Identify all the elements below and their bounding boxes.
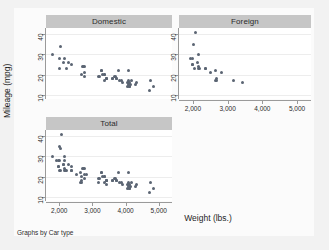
x-tick	[59, 203, 60, 206]
graph-note: Graphs by Car type	[17, 229, 73, 236]
data-point	[58, 57, 61, 60]
data-point	[70, 165, 73, 168]
data-point	[59, 169, 62, 172]
data-point	[134, 83, 137, 86]
y-tick-label: 30	[37, 54, 44, 74]
data-point	[121, 81, 124, 84]
plot-area-foreign	[179, 28, 311, 99]
data-point	[148, 191, 151, 194]
data-point	[111, 77, 114, 80]
y-tick-label: 30	[37, 156, 44, 176]
data-point	[51, 155, 54, 158]
x-tick	[228, 101, 229, 104]
x-axis-line	[179, 100, 311, 101]
y-tick-label: 10	[170, 94, 177, 114]
data-point	[103, 73, 106, 76]
x-tick-label: 5,000	[284, 105, 310, 112]
data-point	[214, 69, 217, 72]
x-tick	[262, 101, 263, 104]
x-tick	[297, 101, 298, 104]
data-point	[192, 43, 195, 46]
y-tick-label: 40	[37, 136, 44, 156]
data-point	[117, 69, 120, 72]
data-point	[98, 177, 101, 180]
data-point	[148, 89, 151, 92]
data-point	[105, 183, 108, 186]
data-point	[60, 133, 63, 136]
data-point	[83, 177, 86, 180]
gridline	[179, 75, 311, 76]
panel-domestic: Domestic	[46, 15, 172, 99]
y-tick-label: 20	[37, 176, 44, 196]
x-axis-title: Weight (lbs.)	[148, 213, 268, 223]
data-point	[197, 53, 200, 56]
x-tick	[193, 101, 194, 104]
data-point	[215, 77, 218, 80]
data-point	[115, 77, 118, 80]
data-point	[59, 45, 62, 48]
data-point	[191, 63, 194, 66]
gridline	[46, 34, 172, 35]
data-point	[111, 179, 114, 182]
data-point	[62, 61, 65, 64]
gridline	[179, 95, 311, 96]
data-point	[65, 67, 68, 70]
data-point	[83, 71, 86, 74]
x-tick	[159, 203, 160, 206]
data-point	[62, 163, 65, 166]
data-point	[152, 85, 155, 88]
data-point	[127, 69, 130, 72]
data-point	[63, 57, 66, 60]
data-point	[198, 67, 201, 70]
data-point	[51, 53, 54, 56]
y-axis-line	[178, 28, 179, 99]
data-point	[58, 67, 61, 70]
data-point	[79, 171, 82, 174]
data-point	[103, 175, 106, 178]
data-point	[98, 75, 101, 78]
data-point	[70, 63, 73, 66]
data-point	[127, 171, 130, 174]
x-tick-label: 3,000	[79, 207, 105, 214]
y-axis-line	[45, 28, 46, 99]
data-point	[115, 179, 118, 182]
data-point	[117, 171, 120, 174]
data-point	[241, 81, 244, 84]
data-point	[100, 69, 103, 72]
gridline	[46, 75, 172, 76]
gridline	[46, 177, 172, 178]
data-point	[70, 169, 73, 172]
data-point	[193, 67, 196, 70]
gridline	[46, 136, 172, 137]
x-tick	[126, 203, 127, 206]
data-point	[232, 79, 235, 82]
x-axis-line	[46, 202, 172, 203]
data-point	[152, 187, 155, 190]
x-tick-label: 3,000	[215, 105, 241, 112]
gridline	[179, 34, 311, 35]
y-tick-label: 30	[170, 54, 177, 74]
data-point	[63, 159, 66, 162]
y-tick-label: 10	[37, 94, 44, 114]
x-tick-label: 2,000	[46, 207, 72, 214]
x-tick-label: 4,000	[113, 207, 139, 214]
panel-total: Total	[46, 117, 172, 201]
data-point	[97, 181, 100, 184]
x-tick	[92, 203, 93, 206]
panel-title-foreign: Foreign	[179, 15, 311, 28]
plot-area-total	[46, 130, 172, 201]
data-point	[149, 79, 152, 82]
gridline	[46, 197, 172, 198]
data-point	[134, 185, 137, 188]
data-point	[204, 67, 207, 70]
y-axis-line	[45, 130, 46, 201]
x-tick-label: 4,000	[249, 105, 275, 112]
data-point	[128, 187, 131, 190]
x-tick-label: 2,000	[180, 105, 206, 112]
data-point	[100, 171, 103, 174]
data-point	[191, 57, 194, 60]
y-tick-label: 40	[37, 34, 44, 54]
data-point	[57, 165, 60, 168]
data-point	[83, 75, 86, 78]
data-point	[83, 167, 86, 170]
